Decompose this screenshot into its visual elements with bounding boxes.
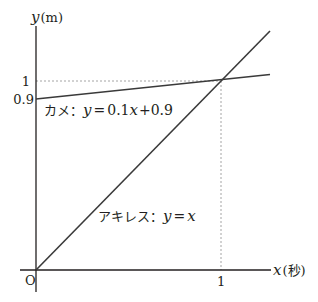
origin-label: O [25,273,36,288]
y-tick-1: 1 [22,74,30,89]
x-tick-1: 1 [217,274,225,289]
y-axis-label: y(m) [30,8,63,26]
kame-line [36,75,270,100]
y-tick-0-9: 0.9 [13,92,34,107]
graph-figure: y(m) 1 0.9 O 1 x(秒) カメ：y=0.1x+0.9 アキレス：y… [0,0,318,302]
graph-canvas: y(m) 1 0.9 O 1 x(秒) カメ：y=0.1x+0.9 アキレス：y… [0,0,318,302]
x-axis-label: x(秒) [273,261,306,279]
kame-equation-label: カメ：y=0.1x+0.9 [44,101,173,119]
achilles-equation-label: アキレス：y=x [98,207,196,225]
achilles-line [36,31,270,270]
